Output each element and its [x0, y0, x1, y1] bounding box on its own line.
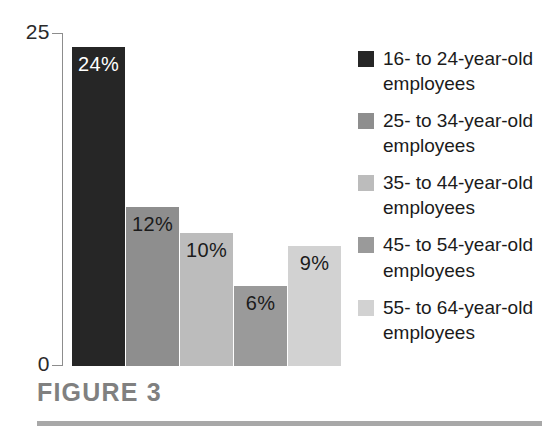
- y-axis-tick-label-max: 25: [10, 20, 50, 44]
- legend-color-swatch: [358, 113, 374, 129]
- legend-item[interactable]: 55- to 64-year-old employees: [358, 295, 542, 345]
- y-axis-line: [62, 33, 63, 365]
- bar-value-label: 24%: [72, 53, 125, 76]
- bar-value-label: 10%: [180, 239, 233, 262]
- bar[interactable]: 9%: [288, 246, 341, 366]
- bar[interactable]: 6%: [234, 286, 287, 366]
- legend-item[interactable]: 25- to 34-year-old employees: [358, 108, 542, 158]
- bar-value-label: 12%: [126, 213, 179, 236]
- bar[interactable]: 10%: [180, 233, 233, 366]
- figure-container: 25 0 24%12%10%6%9% 16- to 24-year-old em…: [0, 0, 542, 440]
- bar[interactable]: 12%: [126, 207, 179, 366]
- figure-caption: FIGURE 3: [37, 378, 162, 407]
- legend-item-label: 16- to 24-year-old employees: [383, 46, 542, 96]
- legend-color-swatch: [358, 237, 374, 253]
- legend-item-label: 55- to 64-year-old employees: [383, 295, 542, 345]
- legend-item[interactable]: 35- to 44-year-old employees: [358, 170, 542, 220]
- legend-item-label: 35- to 44-year-old employees: [383, 170, 542, 220]
- caption-divider: [37, 421, 542, 426]
- y-axis-tick-label-min: 0: [10, 352, 50, 376]
- y-axis-tick-min: [52, 365, 63, 366]
- legend-item[interactable]: 45- to 54-year-old employees: [358, 232, 542, 282]
- legend-item[interactable]: 16- to 24-year-old employees: [358, 46, 542, 96]
- bar-value-label: 6%: [234, 292, 287, 315]
- bar-series: 24%12%10%6%9%: [72, 0, 342, 366]
- bar-chart-plot-area: 25 0 24%12%10%6%9%: [0, 0, 350, 380]
- chart-legend: 16- to 24-year-old employees25- to 34-ye…: [358, 46, 542, 357]
- legend-item-label: 25- to 34-year-old employees: [383, 108, 542, 158]
- y-axis-tick-max: [52, 33, 63, 34]
- bar[interactable]: 24%: [72, 47, 125, 366]
- legend-color-swatch: [358, 175, 374, 191]
- legend-color-swatch: [358, 300, 374, 316]
- legend-color-swatch: [358, 51, 374, 67]
- bar-value-label: 9%: [288, 252, 341, 275]
- legend-item-label: 45- to 54-year-old employees: [383, 232, 542, 282]
